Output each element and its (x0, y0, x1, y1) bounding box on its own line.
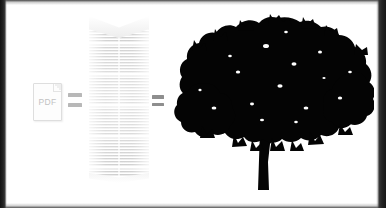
equals-sign-first (68, 93, 82, 107)
equals-bar-bottom (152, 103, 164, 107)
infographic-scene: PDF (0, 0, 386, 208)
stack-left-face-shading (89, 27, 119, 177)
stack-right-face-shading (119, 27, 149, 177)
tree-silhouette-icon (174, 12, 374, 196)
pdf-document-icon: PDF (33, 83, 62, 121)
equals-bar-top (152, 95, 164, 99)
equals-bar-bottom (68, 103, 82, 107)
equals-sign-second (152, 95, 164, 106)
paper-stack-illustration (89, 27, 149, 177)
equals-bar-top (68, 93, 82, 97)
stack-center-fold (118, 27, 121, 177)
pdf-icon-label: PDF (39, 98, 57, 107)
